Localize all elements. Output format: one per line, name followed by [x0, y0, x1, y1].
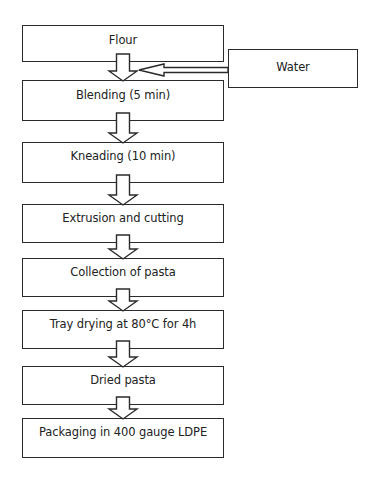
down-arrow-icon — [109, 235, 137, 259]
down-arrow-icon — [109, 397, 137, 419]
down-arrow-icon — [109, 113, 137, 143]
down-arrow-icon — [109, 175, 137, 205]
down-arrow-icon — [109, 54, 137, 81]
down-arrow-icon — [109, 289, 137, 311]
left-arrow-icon — [139, 64, 228, 76]
down-arrow-icons — [109, 54, 137, 419]
down-arrow-icon — [109, 341, 137, 367]
arrows-layer — [0, 0, 376, 482]
